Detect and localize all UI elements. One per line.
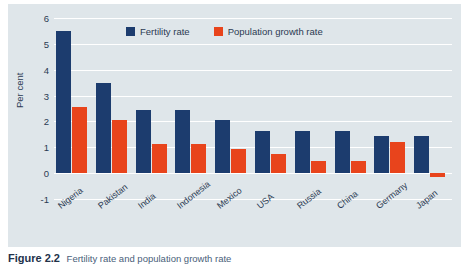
figure-caption-number: Figure 2.2 (8, 252, 60, 264)
y-tick-label-1: 1 (44, 142, 49, 153)
x-axis-tick-labels: NigeriaPakistanIndiaIndonesiaMexicoUSARu… (54, 203, 452, 247)
bar-mexico-growth[interactable] (231, 149, 246, 174)
y-tick-label-3: 3 (44, 90, 49, 101)
legend-swatch-icon (126, 27, 135, 36)
bar-japan-growth[interactable] (430, 173, 445, 177)
y-tick-label--1: -1 (41, 194, 49, 205)
y-tick-label-4: 4 (44, 64, 49, 75)
bar-russia-growth[interactable] (311, 161, 326, 173)
y-tick-label-2: 2 (44, 116, 49, 127)
figure-caption-text: Fertility rate and population growth rat… (67, 253, 232, 264)
legend-item-fertility-rate[interactable]: Fertility rate (126, 26, 190, 37)
bar-pakistan-fertility[interactable] (96, 83, 111, 174)
y-tick-label-0: 0 (44, 168, 49, 179)
figure-container: Per cent 6543210-1 NigeriaPakistanIndiaI… (0, 0, 469, 268)
chart-legend: Fertility ratePopulation growth rate (126, 26, 323, 37)
bar-group (94, 18, 134, 199)
plot-area: 6543210-1 (54, 18, 452, 199)
bar-pakistan-growth[interactable] (112, 120, 127, 173)
bar-japan-fertility[interactable] (414, 136, 429, 173)
bar-germany-fertility[interactable] (374, 136, 389, 173)
legend-item-population-growth-rate[interactable]: Population growth rate (214, 26, 323, 37)
bar-russia-fertility[interactable] (295, 131, 310, 173)
bar-group (213, 18, 253, 199)
bar-indonesia-fertility[interactable] (175, 110, 190, 173)
bar-indonesia-growth[interactable] (191, 144, 206, 173)
bar-group (134, 18, 174, 199)
bar-usa-growth[interactable] (271, 154, 286, 173)
bar-group (372, 18, 412, 199)
legend-swatch-icon (214, 27, 223, 36)
chart-panel: Per cent 6543210-1 NigeriaPakistanIndiaI… (8, 4, 461, 247)
y-axis-title: Per cent (14, 73, 25, 108)
bar-india-growth[interactable] (152, 144, 167, 173)
bar-nigeria-fertility[interactable] (56, 31, 71, 173)
bar-china-growth[interactable] (351, 161, 366, 173)
bar-group (333, 18, 373, 199)
bar-usa-fertility[interactable] (255, 131, 270, 173)
bar-group (173, 18, 213, 199)
bar-india-fertility[interactable] (136, 110, 151, 173)
y-tick-label-6: 6 (44, 13, 49, 24)
bar-series-container (54, 18, 452, 199)
y-tick-label-5: 5 (44, 38, 49, 49)
figure-caption: Figure 2.2 Fertility rate and population… (8, 252, 463, 264)
bar-group (54, 18, 94, 199)
bar-group (253, 18, 293, 199)
bar-china-fertility[interactable] (335, 131, 350, 173)
bar-germany-growth[interactable] (390, 142, 405, 174)
bar-mexico-fertility[interactable] (215, 120, 230, 173)
bar-group (293, 18, 333, 199)
legend-label: Population growth rate (228, 26, 323, 37)
bar-nigeria-growth[interactable] (72, 107, 87, 173)
bar-group (412, 18, 452, 199)
legend-label: Fertility rate (140, 26, 190, 37)
